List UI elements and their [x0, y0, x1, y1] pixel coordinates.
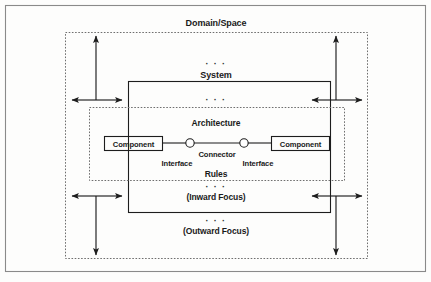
rules-label: Rules — [205, 169, 228, 179]
interface-right-label: Interface — [243, 159, 274, 168]
ellipsis-above-outward: · · · — [206, 216, 227, 226]
connector-label: Connector — [198, 150, 235, 159]
component-left-label: Component — [113, 140, 155, 149]
inward-focus-label: (Inward Focus) — [186, 192, 245, 202]
domain-space-label: Domain/Space — [186, 18, 247, 28]
outward-focus-label: (Outward Focus) — [183, 226, 249, 236]
ellipsis-below-system: · · · — [206, 95, 227, 105]
interface-circle-left — [186, 139, 194, 147]
ellipsis-above-inward: · · · — [206, 182, 227, 192]
interface-left-label: Interface — [162, 159, 193, 168]
interface-circle-right — [240, 139, 248, 147]
ellipsis-above-system: · · · — [206, 59, 227, 69]
architecture-label: Architecture — [192, 118, 241, 128]
architecture-domain-diagram: Domain/Space · · · System · · · Architec… — [0, 0, 431, 282]
component-right-label: Component — [280, 140, 322, 149]
system-label: System — [200, 70, 232, 80]
